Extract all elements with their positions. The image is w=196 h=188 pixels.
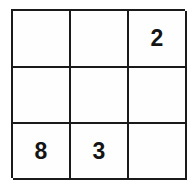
puzzle-grid: 2 8 3 [11, 9, 185, 178]
grid-cell-r2c2[interactable] [71, 68, 129, 124]
grid-cell-r2c3[interactable] [129, 68, 187, 124]
cell-value-r3c2: 3 [93, 140, 106, 163]
grid-cell-r3c1[interactable]: 8 [13, 124, 71, 180]
grid-cell-r3c2[interactable]: 3 [71, 124, 129, 180]
grid-cell-r1c1[interactable] [13, 11, 71, 68]
grid-cell-r3c3[interactable] [129, 124, 187, 180]
cell-value-r3c1: 8 [35, 140, 48, 163]
grid-cell-r1c2[interactable] [71, 11, 129, 68]
grid-cell-r2c1[interactable] [13, 68, 71, 124]
cell-value-r1c3: 2 [151, 27, 164, 50]
grid-cell-r1c3[interactable]: 2 [129, 11, 187, 68]
